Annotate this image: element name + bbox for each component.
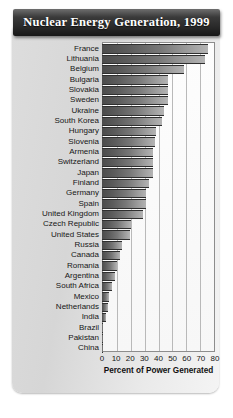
bar-cell [102, 167, 215, 177]
bar-category-label: Pakistan [19, 333, 102, 342]
bar-cell [102, 53, 215, 63]
chart-title-banner: Nuclear Energy Generation, 1999 [13, 9, 220, 36]
bar-cell [102, 229, 215, 239]
bar-row: Mexico [19, 291, 215, 301]
bar-category-label: Russia [19, 240, 102, 249]
bar-row: Ukraine [19, 105, 215, 115]
bar-cell [102, 281, 215, 291]
bar-row: Romania [19, 260, 215, 270]
bar-cell [102, 250, 215, 260]
bar-cell [102, 312, 215, 322]
bar-cell [102, 74, 215, 84]
bar [102, 199, 146, 208]
bar-category-label: Hungary [19, 126, 102, 135]
bar-row: Hungary [19, 126, 215, 136]
bar-row: Armenia [19, 146, 215, 156]
x-tick-label: 60 [182, 354, 191, 364]
bar-category-label: United Kingdom [19, 209, 102, 218]
bar [102, 272, 115, 281]
bar-row: Slovakia [19, 84, 215, 94]
bar-row: China [19, 343, 215, 353]
bar-cell [102, 146, 215, 156]
bar-cell [102, 126, 215, 136]
bar-row: South Korea [19, 115, 215, 125]
nuclear-energy-chart-figure: Nuclear Energy Generation, 1999 FranceLi… [0, 0, 233, 418]
bar-category-label: Netherlands [19, 302, 102, 311]
bar-row: Netherlands [19, 301, 215, 311]
bar-category-label: Belgium [19, 64, 102, 73]
bar [102, 261, 117, 270]
bar [102, 292, 109, 301]
bar-row: Germany [19, 188, 215, 198]
bar [102, 137, 155, 146]
bar [102, 313, 106, 322]
bar-row: Switzerland [19, 157, 215, 167]
bar-category-label: Romania [19, 261, 102, 270]
bar-row: Belgium [19, 64, 215, 74]
bar-category-label: Slovakia [19, 85, 102, 94]
bar-cell [102, 332, 215, 342]
bar-cell [102, 208, 215, 218]
x-tick-label: 50 [168, 354, 177, 364]
bar-row: Finland [19, 177, 215, 187]
bar-category-label: Finland [19, 178, 102, 187]
bar-row: United States [19, 229, 215, 239]
bar-cell [102, 188, 215, 198]
chart-plot-area: FranceLithuaniaBelgiumBulgariaSlovakiaSw… [19, 42, 215, 392]
bar [102, 251, 120, 260]
bar [102, 241, 122, 250]
bar-cell [102, 301, 215, 311]
bar [102, 344, 103, 353]
bar-cell [102, 343, 215, 353]
bar-category-label: France [19, 44, 102, 53]
bar-cell [102, 219, 215, 229]
bar-category-label: China [19, 343, 102, 352]
page-title: Nuclear Energy Generation, 1999 [23, 15, 210, 30]
bar-category-label: Ukraine [19, 106, 102, 115]
bar-category-label: South Africa [19, 281, 102, 290]
bar [102, 148, 153, 157]
x-tick-label: 30 [140, 354, 149, 364]
bar [102, 86, 168, 95]
bar [102, 44, 208, 53]
bar-row: France [19, 43, 215, 53]
bar-cell [102, 136, 215, 146]
bar-row: Lithuania [19, 53, 215, 63]
bar-cell [102, 115, 215, 125]
bar-row: Argentina [19, 270, 215, 280]
bar [102, 282, 112, 291]
bar-row: Slovenia [19, 136, 215, 146]
x-axis-title: Percent of Power Generated [102, 366, 215, 375]
x-tick-label: 70 [196, 354, 205, 364]
x-axis-ticks: 01020304050607080 [102, 354, 215, 366]
bar-cell [102, 239, 215, 249]
bar-row: Japan [19, 167, 215, 177]
bar-category-label: Lithuania [19, 54, 102, 63]
bar [102, 210, 143, 219]
bar-row: Sweden [19, 95, 215, 105]
bar-row: Pakistan [19, 332, 215, 342]
bar [102, 220, 131, 229]
bar-category-label: Slovenia [19, 137, 102, 146]
bar-cell [102, 177, 215, 187]
x-tick-label: 40 [154, 354, 163, 364]
x-tick-label: 0 [100, 354, 104, 364]
bar-row: India [19, 312, 215, 322]
bar-category-label: Germany [19, 188, 102, 197]
bar [102, 230, 130, 239]
bar-row: South Africa [19, 281, 215, 291]
bar [102, 96, 168, 105]
x-tick-label: 80 [211, 354, 220, 364]
bar [102, 75, 168, 84]
bar [102, 334, 103, 343]
bar-category-label: Canada [19, 250, 102, 259]
bar [102, 65, 184, 74]
bar [102, 303, 108, 312]
bar-category-label: Sweden [19, 95, 102, 104]
bar-cell [102, 270, 215, 280]
bar-category-label: Argentina [19, 271, 102, 280]
bar-category-label: South Korea [19, 116, 102, 125]
bar-category-label: Bulgaria [19, 75, 102, 84]
bar-row: Bulgaria [19, 74, 215, 84]
bar-category-label: Brazil [19, 323, 102, 332]
